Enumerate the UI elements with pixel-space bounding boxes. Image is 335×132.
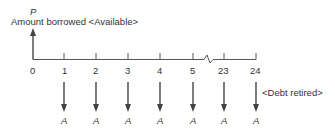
- payment-label: A: [190, 115, 196, 126]
- amount-borrowed-label: Amount borrowed <Available>: [11, 16, 138, 27]
- payment-label: A: [157, 115, 163, 126]
- payment-label: A: [221, 115, 227, 126]
- payment-label: A: [93, 115, 99, 126]
- arrowheads: [61, 104, 259, 112]
- debt-retired-label: <Debt retired>: [262, 87, 323, 98]
- arrow-up-icon: [30, 28, 36, 60]
- period-label: 5: [190, 65, 195, 76]
- period-label: 2: [93, 65, 98, 76]
- payment-label: A: [253, 115, 259, 126]
- payment-label: A: [61, 115, 67, 126]
- payment-label: A: [125, 115, 131, 126]
- period-label: 23: [218, 65, 229, 76]
- period-label: 4: [157, 65, 162, 76]
- time-axis: [33, 53, 256, 63]
- period-label: 1: [62, 65, 67, 76]
- period-label: 3: [125, 65, 130, 76]
- period-label: 24: [250, 65, 261, 76]
- period-label: 0: [30, 65, 35, 76]
- arrow-down-icon: [64, 82, 256, 106]
